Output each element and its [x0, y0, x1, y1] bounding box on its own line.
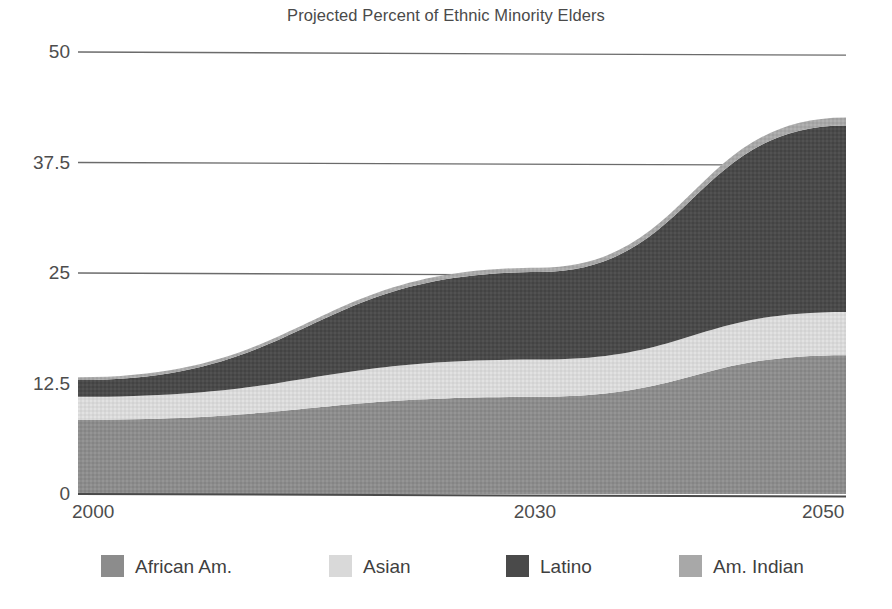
x-axis-tick-label: 2030: [514, 502, 556, 521]
legend-label: Asian: [363, 557, 411, 576]
chart-plot-svg: [78, 40, 846, 506]
chart-container: Projected Percent of Ethnic Minority Eld…: [0, 0, 892, 609]
x-axis-tick-label: 2050: [802, 502, 844, 521]
legend-label: African Am.: [135, 557, 232, 576]
legend-item[interactable]: African Am.: [101, 555, 232, 577]
y-axis-tick-label: 50: [49, 42, 70, 61]
gridline: [78, 273, 462, 275]
stacked-areas: [78, 117, 846, 494]
legend-swatch-icon: [679, 555, 702, 577]
x-axis-tick-label: 2000: [72, 502, 114, 521]
y-axis-tick-label: 0: [59, 484, 70, 503]
y-axis-tick-label: 12.5: [33, 374, 70, 393]
chart-legend: African Am.AsianLatinoAm. Indian: [0, 551, 892, 581]
y-axis-tick-label: 25: [49, 263, 70, 282]
x-axis: 200020302050: [0, 502, 892, 532]
chart-title: Projected Percent of Ethnic Minority Eld…: [0, 6, 892, 25]
axis-baseline: [78, 494, 846, 497]
legend-swatch-icon: [506, 555, 529, 577]
legend-swatch-icon: [101, 555, 124, 577]
plot-area: [78, 40, 846, 506]
legend-item[interactable]: Asian: [329, 555, 411, 577]
legend-swatch-icon: [329, 555, 352, 577]
legend-item[interactable]: Latino: [506, 555, 592, 577]
gridline: [78, 52, 846, 55]
gridline: [78, 163, 727, 165]
legend-label: Am. Indian: [713, 557, 804, 576]
x-axis-baseline: [78, 494, 846, 497]
legend-item[interactable]: Am. Indian: [679, 555, 804, 577]
y-axis-tick-label: 37.5: [33, 153, 70, 172]
legend-label: Latino: [540, 557, 592, 576]
